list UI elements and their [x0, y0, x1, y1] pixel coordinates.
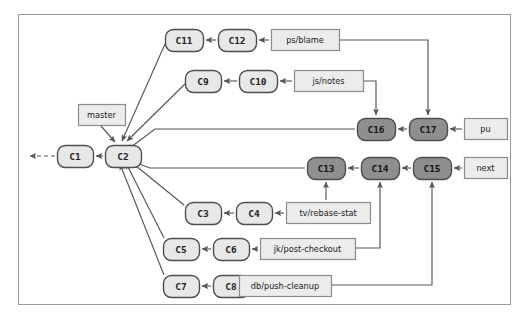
branch-label-text: db/push-cleanup [251, 281, 319, 291]
branch-label-master[interactable]: master [79, 105, 126, 126]
commit-label: C11 [175, 35, 192, 46]
branch-label-text: tv/rebase-stat [299, 208, 357, 218]
commit-label: C14 [371, 163, 388, 174]
commit-label: C16 [367, 124, 384, 135]
commit-node-c12[interactable]: C12 [219, 30, 257, 52]
branch-label-next[interactable]: next [465, 158, 508, 179]
commit-node-c17[interactable]: C17 [410, 119, 448, 141]
git-branch-diagram: C1C2C3C4C5C6C7C8C9C10C11C12C13C14C15C16C… [0, 0, 525, 328]
branch-label-db-push-cleanup[interactable]: db/push-cleanup [240, 276, 332, 297]
branch-label-js-notes[interactable]: js/notes [295, 71, 364, 92]
commit-label: C17 [419, 124, 436, 135]
branch-label-jk-post-checkout[interactable]: jk/post-checkout [261, 239, 356, 260]
commit-label: C10 [249, 76, 266, 87]
commit-label: C5 [175, 244, 187, 255]
commit-node-c15[interactable]: C15 [414, 158, 452, 180]
commit-label: C13 [317, 163, 334, 174]
commit-node-c3[interactable]: C3 [186, 203, 222, 225]
branch-label-ps-blame[interactable]: ps/blame [272, 30, 340, 51]
branch-label-text: master [87, 110, 117, 120]
branch-label-text: js/notes [311, 76, 344, 86]
branch-label-text: ps/blame [286, 35, 324, 45]
branch-label-text: next [476, 163, 495, 173]
commit-node-c7[interactable]: C7 [164, 276, 200, 298]
commit-label: C2 [117, 151, 128, 162]
commit-node-c6[interactable]: C6 [214, 239, 250, 261]
commit-label: C4 [248, 208, 260, 219]
commit-label: C15 [423, 163, 440, 174]
commit-node-c5[interactable]: C5 [164, 239, 200, 261]
commit-node-c4[interactable]: C4 [237, 203, 273, 225]
commit-node-c13[interactable]: C13 [308, 158, 346, 180]
commit-node-c9[interactable]: C9 [186, 71, 222, 93]
diagram-canvas: C1C2C3C4C5C6C7C8C9C10C11C12C13C14C15C16C… [0, 0, 525, 328]
commit-node-c11[interactable]: C11 [166, 30, 204, 52]
commit-label: C12 [228, 35, 245, 46]
commit-label: C1 [69, 151, 81, 162]
commit-label: C6 [225, 244, 237, 255]
commit-node-c1[interactable]: C1 [58, 146, 94, 168]
figure-caption [18, 316, 518, 327]
commit-node-c10[interactable]: C10 [240, 71, 278, 93]
commit-label: C8 [225, 281, 237, 292]
branch-label-text: pu [480, 124, 490, 134]
commit-label: C3 [197, 208, 209, 219]
commit-label: C9 [197, 76, 209, 87]
commit-label: C7 [175, 281, 186, 292]
commit-node-c16[interactable]: C16 [358, 119, 396, 141]
branch-label-tv-rebase-stat[interactable]: tv/rebase-stat [287, 203, 371, 224]
branch-label-pu[interactable]: pu [465, 119, 508, 140]
commit-node-c14[interactable]: C14 [362, 158, 400, 180]
commit-node-c2[interactable]: C2 [106, 146, 142, 168]
branch-label-text: jk/post-checkout [273, 244, 342, 254]
